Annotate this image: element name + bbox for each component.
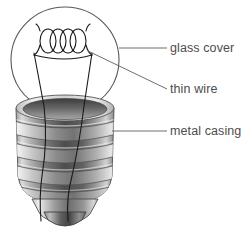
- label-thin-wire: thin wire: [170, 82, 217, 96]
- metal-casing-shape: [10, 95, 120, 226]
- light-bulb-diagram: glass cover thin wire metal casing: [0, 0, 251, 229]
- label-metal-casing: metal casing: [170, 124, 241, 138]
- label-glass-cover: glass cover: [170, 41, 234, 55]
- diagram-canvas: [0, 0, 251, 229]
- casing-contact-tip: [44, 212, 86, 226]
- glass-cover-shape: [11, 7, 119, 107]
- casing-inner-cavity: [23, 99, 107, 120]
